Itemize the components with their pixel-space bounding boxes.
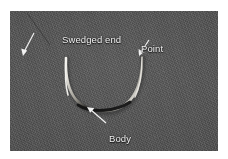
annotation-label-body: Body <box>109 133 131 144</box>
annotation-label-swedged-end: Swedged end <box>62 34 121 45</box>
figure-root: Swedged end Point Body <box>0 0 228 159</box>
needle-photograph: Swedged end Point Body <box>10 11 218 151</box>
needle-and-leaders <box>10 11 218 151</box>
annotation-label-point: Point <box>141 43 163 54</box>
leader-swedged-end <box>21 33 34 56</box>
